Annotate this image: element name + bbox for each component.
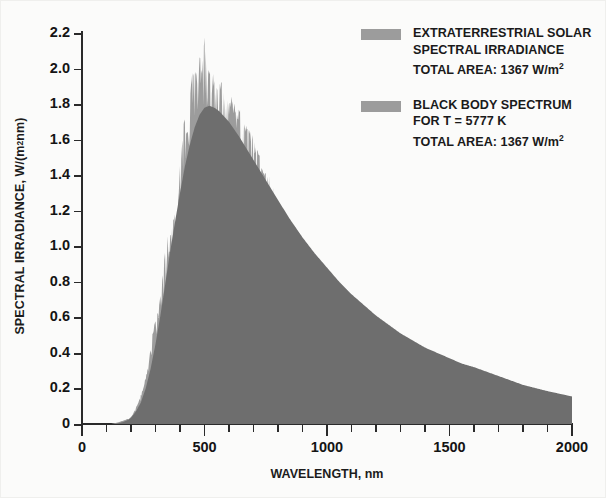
y-tick-mark — [74, 140, 82, 142]
y-axis-title: SPECTRAL IRRADIANCE, W/(m2 nm) — [7, 11, 33, 441]
x-tick-mark — [130, 425, 132, 432]
legend-entry-blackbody: BLACK BODY SPECTRUM FOR T = 5777 K TOTAL… — [361, 97, 601, 151]
y-tick-mark — [74, 211, 82, 213]
legend-solar-area-text: TOTAL AREA: 1367 W/m — [413, 63, 559, 77]
legend-swatch-solar — [361, 29, 401, 40]
x-tick-mark — [302, 425, 304, 432]
y-tick-label: 1.4 — [50, 166, 70, 182]
x-tick-mark — [571, 425, 573, 436]
x-tick-mark — [449, 425, 451, 436]
y-tick-mark — [74, 33, 82, 35]
x-tick-mark — [547, 425, 549, 432]
y-tick-mark — [74, 353, 82, 355]
legend-solar-area-superscript: 2 — [559, 61, 564, 71]
x-tick-mark — [204, 425, 206, 436]
x-tick-label: 2000 — [556, 439, 588, 455]
y-tick-mark — [74, 175, 82, 177]
y-tick-label: 0.6 — [50, 308, 70, 324]
x-tick-mark — [81, 425, 83, 436]
legend-blackbody-line3: TOTAL AREA: 1367 W/m2 — [413, 130, 572, 151]
x-tick-mark — [228, 425, 230, 432]
y-tick-label: 0 — [62, 415, 70, 431]
legend-label-blackbody: BLACK BODY SPECTRUM FOR T = 5777 K TOTAL… — [413, 97, 572, 151]
y-tick-label: 1.8 — [50, 95, 70, 111]
y-tick-mark — [74, 69, 82, 71]
x-tick-label: 0 — [78, 439, 86, 455]
y-axis-title-suffix: nm) — [13, 117, 27, 140]
y-tick-mark — [74, 388, 82, 390]
x-tick-mark — [522, 425, 524, 432]
y-tick-label: 0.8 — [50, 273, 70, 289]
legend-blackbody-line1: BLACK BODY SPECTRUM — [413, 97, 572, 114]
legend-entry-solar: EXTRATERRESTRIAL SOLAR SPECTRAL IRRADIAN… — [361, 25, 601, 79]
x-tick-mark — [498, 425, 500, 432]
y-tick-label: 1.6 — [50, 131, 70, 147]
x-tick-label: 1000 — [311, 439, 343, 455]
x-tick-mark — [155, 425, 157, 432]
legend-solar-line2: SPECTRAL IRRADIANCE — [413, 42, 591, 59]
x-tick-mark — [473, 425, 475, 432]
y-tick-mark — [74, 246, 82, 248]
x-tick-mark — [253, 425, 255, 432]
chart-figure: SPECTRAL IRRADIANCE, W/(m2 nm) 00.20.40.… — [0, 0, 606, 498]
y-tick-label: 2.2 — [50, 24, 70, 40]
x-tick-label: 1500 — [433, 439, 465, 455]
y-tick-mark — [74, 104, 82, 106]
x-tick-label: 500 — [192, 439, 216, 455]
y-tick-label: 1.0 — [50, 237, 70, 253]
y-tick-label: 0.4 — [50, 344, 70, 360]
legend-solar-line3: TOTAL AREA: 1367 W/m2 — [413, 58, 591, 79]
x-tick-mark — [179, 425, 181, 432]
x-tick-mark — [326, 425, 328, 436]
x-axis-title: WAVELENGTH, nm — [82, 467, 572, 481]
x-tick-mark — [400, 425, 402, 432]
x-tick-mark — [106, 425, 108, 432]
legend-label-solar: EXTRATERRESTRIAL SOLAR SPECTRAL IRRADIAN… — [413, 25, 591, 79]
y-tick-label: 0.2 — [50, 379, 70, 395]
x-tick-mark — [375, 425, 377, 432]
x-tick-mark — [277, 425, 279, 432]
y-axis-title-superscript: 2 — [15, 141, 25, 146]
legend-solar-line1: EXTRATERRESTRIAL SOLAR — [413, 25, 591, 42]
legend-blackbody-area-superscript: 2 — [559, 133, 564, 143]
legend-blackbody-line2: FOR T = 5777 K — [413, 113, 572, 130]
x-tick-mark — [424, 425, 426, 432]
x-tick-mark — [351, 425, 353, 432]
y-tick-label: 2.0 — [50, 60, 70, 76]
y-tick-mark — [74, 317, 82, 319]
y-axis-title-prefix: SPECTRAL IRRADIANCE, W/(m — [13, 145, 27, 334]
y-tick-mark — [74, 282, 82, 284]
y-tick-label: 1.2 — [50, 202, 70, 218]
chart-legend: EXTRATERRESTRIAL SOLAR SPECTRAL IRRADIAN… — [361, 25, 601, 168]
legend-swatch-blackbody — [361, 101, 401, 112]
legend-blackbody-area-text: TOTAL AREA: 1367 W/m — [413, 135, 559, 149]
